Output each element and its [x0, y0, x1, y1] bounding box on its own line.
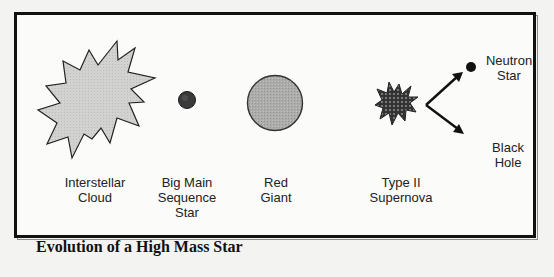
- neutron-dot-icon: [466, 62, 476, 72]
- label-black-hole: Black Hole: [483, 140, 533, 170]
- label-type-ii-supernova: Type II Supernova: [366, 175, 436, 205]
- arrow-up-right-icon: [426, 72, 463, 105]
- label-interstellar-cloud: Interstellar Cloud: [60, 175, 130, 205]
- small-dark-star-icon: [179, 92, 196, 109]
- label-red-giant: Red Giant: [246, 175, 306, 205]
- arrow-down-right-icon: [426, 105, 464, 134]
- diagram-title: Evolution of a High Mass Star: [36, 238, 243, 256]
- label-neutron-star: Neutron Star: [479, 53, 539, 83]
- label-big-main-sequence-star: Big Main Sequence Star: [152, 175, 222, 220]
- diagram-art: [0, 0, 554, 277]
- starburst-cloud-icon: [38, 41, 155, 158]
- large-gray-sphere-icon: [248, 76, 303, 131]
- supernova-burst-icon: [375, 82, 418, 125]
